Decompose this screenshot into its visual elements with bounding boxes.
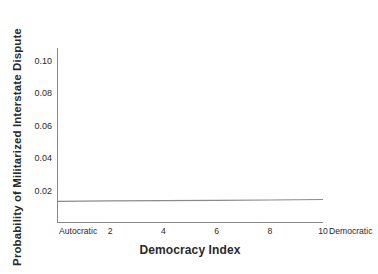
y-tick-text: 0.04 [0,153,52,163]
y-tick-text: 0.06 [0,121,52,131]
y-tick-text: 0.08 [0,88,52,98]
y-tick-label: 0.04 [0,153,52,163]
y-tick-text: 0.10 [0,56,52,66]
x-tick-label: 8 [267,226,272,237]
y-tick-label: 0.06 [0,121,52,131]
data-line-layer [57,48,323,223]
y-tick-text: 0.02 [0,186,52,196]
y-tick-label: 0.10 [0,56,52,66]
x-tick-label: 10 [318,226,328,237]
chart-figure: Probability of Militarized Interstate Di… [0,0,378,274]
y-axis-title: Probability of Militarized Interstate Di… [7,10,27,274]
y-tick-label: 0.02 [0,186,52,196]
x-tick-label: Democratic [329,226,372,237]
x-axis-title: Democracy Index [57,243,323,257]
x-tick-label: 6 [214,226,219,237]
data-line [57,200,323,202]
x-tick-label: 2 [108,226,113,237]
x-tick-label: Autocratic [59,226,97,237]
y-tick-label: 0.08 [0,88,52,98]
x-tick-label: 4 [161,226,166,237]
